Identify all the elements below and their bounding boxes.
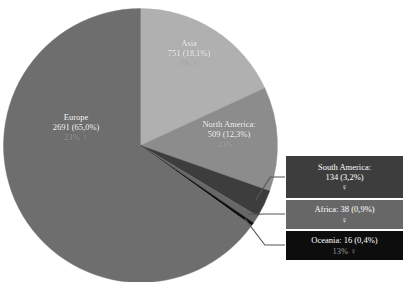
- pie-slice-group: [3, 9, 277, 282]
- callout-south-america-value: 134 (3,2%): [325, 172, 363, 182]
- pie-chart-figure: Europe 2691 (65,0%) 23% ♀ Asia 751 (18,1…: [0, 0, 404, 282]
- callout-south-america-title: South America:: [318, 162, 371, 172]
- callout-box-south-america: South America: 134 (3,2%) ♀: [285, 155, 404, 199]
- callout-oceania-sub: 13% ♀: [332, 246, 356, 256]
- callout-box-oceania: Oceania: 16 (0,4%) 13% ♀: [285, 230, 404, 261]
- callout-box-africa: Africa: 38 (0,9%) ♀: [285, 199, 404, 230]
- callout-south-america-sub: ♀: [341, 182, 347, 192]
- callout-africa-sub: ♀: [341, 215, 347, 225]
- callout-oceania-title: Oceania: 16 (0,4%): [311, 235, 377, 245]
- callout-africa-title: Africa: 38 (0,9%): [314, 204, 374, 214]
